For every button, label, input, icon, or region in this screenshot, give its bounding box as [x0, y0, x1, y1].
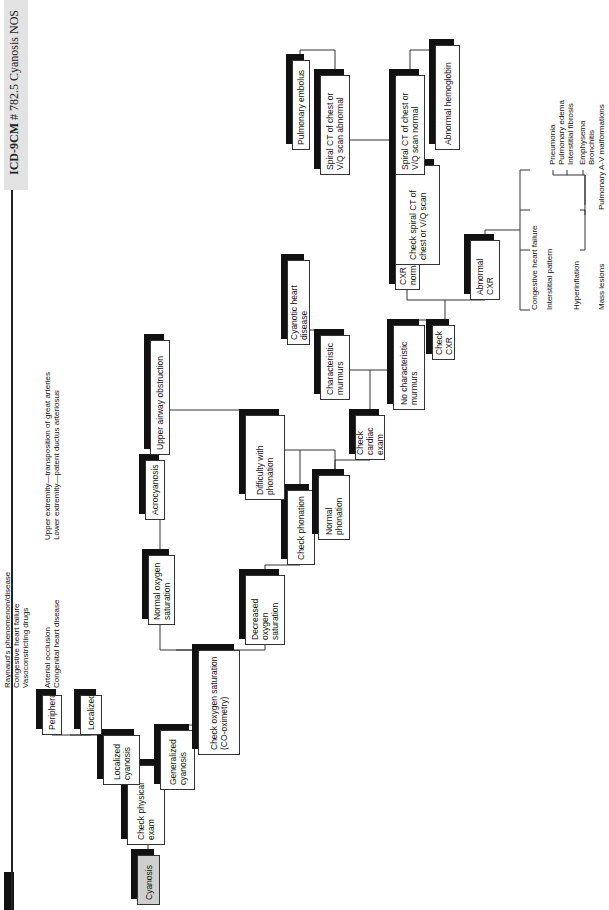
- node-abnormal-cxr: Abnormal CXR: [470, 240, 500, 300]
- cause-item: Vasoconstricting drugs: [21, 468, 30, 688]
- localized-causes-list: Arterial occlusion Congenital heart dise…: [43, 599, 61, 688]
- node-label: Acrocyanosis: [150, 464, 160, 515]
- node-label: Check oxygen saturation (CO-oximetry): [209, 655, 229, 750]
- node-label: Cyanosis: [144, 865, 154, 900]
- node-spiral-ct-abnormal: Spiral CT of chest or V/Q scan abnormal: [320, 75, 350, 175]
- node-label: Spiral CT of chest or V/Q scan normal: [400, 80, 420, 170]
- cause-item: Congenital heart disease: [52, 599, 61, 688]
- node-normal-phonation: Normal phonation: [318, 475, 350, 540]
- node-upper-airway-obstruction: Upper airway obstruction: [150, 340, 170, 455]
- node-no-characteristic-murmurs: No characteristic murmurs: [393, 325, 425, 410]
- node-decreased-oxygen-saturation: Decreased oxygen saturation: [245, 575, 285, 645]
- flowchart-page: ICD-9CM # 782.5 Cyanosis NOS: [0, 0, 609, 910]
- node-label: Check CXR: [434, 330, 454, 355]
- node-label: Abnormal hemoglobin: [443, 62, 453, 145]
- cause-item: Congestive heart failure: [12, 468, 21, 688]
- node-normal-oxygen-saturation: Normal oxygen saturation: [148, 555, 175, 625]
- cause-item: Lower extremity—patent ductus arteriosus: [52, 372, 61, 540]
- node-label: Check cardiac exam: [355, 420, 385, 455]
- finding-hyperinflation: Hyperinflation: [572, 261, 581, 310]
- finding-mass: Mass lesions: [597, 264, 606, 310]
- node-spiral-ct-normal: Spiral CT of chest or V/Q scan normal: [395, 75, 425, 175]
- finding-item: Pneumonia: [548, 100, 557, 165]
- node-check-spiral-ct: Check spiral CT of chest or V/Q scan: [395, 165, 440, 265]
- node-pulmonary-embolus: Pulmonary embolus: [292, 60, 310, 150]
- hyperinflation-items: Emphysema Bronchitis: [578, 121, 596, 165]
- node-label: Localized: [86, 694, 96, 730]
- node-label: Cyanotic heart disease: [289, 265, 309, 340]
- node-abnormal-hemoglobin: Abnormal hemoglobin: [435, 45, 460, 150]
- node-cyanotic-heart-disease: Cyanotic heart disease: [287, 260, 310, 345]
- node-label: Spiral CT of chest or V/Q scan abnormal: [325, 80, 345, 170]
- node-acrocyanosis: Acrocyanosis: [145, 460, 165, 520]
- node-label: Normal oxygen saturation: [152, 560, 172, 620]
- node-label: No characteristic murmurs: [399, 330, 419, 405]
- node-label: Normal phonation: [324, 480, 344, 535]
- peripheral-causes-list: Raynaud's phenomenon/disease Congestive …: [3, 468, 30, 688]
- node-localized: Localized: [80, 695, 102, 735]
- node-check-cxr: Check CXR: [432, 325, 455, 360]
- finding-item: Pulmonary edema: [557, 100, 566, 165]
- congenital-subcauses-list: Upper extremity—transposition of great a…: [43, 372, 61, 540]
- node-localized-cyanosis: Localized cyanosis: [103, 735, 140, 785]
- node-label: Check spiral CT of chest or V/Q scan: [408, 170, 428, 260]
- edge-decreased-phonation: [265, 565, 300, 575]
- finding-chf: Congestive heart failure: [530, 226, 539, 311]
- node-label: Decreased oxygen saturation: [250, 580, 280, 640]
- finding-item: Interstitial fibrosis: [566, 100, 575, 165]
- cause-item: Arterial occlusion: [43, 599, 52, 688]
- node-peripheral: Peripheral: [42, 695, 62, 735]
- edge-normal-cardiac: [335, 460, 370, 475]
- node-label: Peripheral: [47, 691, 57, 730]
- node-label: Localized cyanosis: [112, 740, 132, 780]
- cause-item: Raynaud's phenomenon/disease: [3, 468, 12, 688]
- finding-item: Emphysema: [578, 121, 587, 165]
- node-difficulty-with-phonation: Difficulty with phonation: [245, 415, 285, 500]
- node-check-oxygen-saturation: Check oxygen saturation (CO-oximetry): [198, 650, 240, 755]
- cause-item: Upper extremity—transposition of great a…: [43, 372, 52, 540]
- node-generalized-cyanosis: Generalized cyanosis: [160, 730, 195, 790]
- node-characteristic-murmurs: Characteristic murmurs: [320, 335, 350, 400]
- node-cyanosis: Cyanosis: [137, 855, 160, 905]
- finding-mass-item: Pulmonary A-V malformations: [597, 104, 606, 210]
- node-check-cardiac-exam: Check cardiac exam: [355, 415, 385, 460]
- node-label: Characteristic murmurs: [325, 340, 345, 395]
- node-check-phonation: Check phonation: [287, 490, 315, 565]
- node-label: Pulmonary embolus: [296, 70, 306, 145]
- finding-interstitial: Interstitial pattern: [545, 249, 554, 310]
- edge-hyper-items: [580, 175, 585, 215]
- finding-item: Bronchitis: [587, 121, 596, 165]
- node-label: Generalized cyanosis: [168, 735, 188, 785]
- interstitial-items: Pneumonia Pulmonary edema Interstitial f…: [548, 100, 575, 165]
- node-label: Upper airway obstruction: [155, 356, 165, 450]
- node-label: Check phonation: [296, 496, 306, 560]
- node-label: Abnormal CXR: [475, 245, 495, 295]
- node-label: Difficulty with phonation: [255, 420, 275, 495]
